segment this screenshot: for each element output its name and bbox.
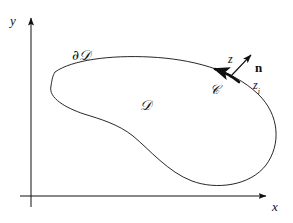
point-zi-base: z	[253, 78, 258, 92]
point-z-label: z	[228, 53, 233, 65]
normal-vector-arrow	[230, 55, 251, 77]
region-boundary-outline	[51, 57, 276, 186]
curve-label: 𝒞	[210, 83, 219, 96]
boundary-label: ∂𝒟	[72, 48, 90, 62]
point-zi-subscript: i	[258, 87, 260, 96]
x-axis-label: x	[272, 200, 278, 213]
point-zi-label: zi	[253, 79, 260, 94]
y-axis-label: y	[10, 14, 16, 27]
normal-vector-label: n	[255, 61, 262, 74]
figure-container: y x ∂𝒟 𝒟 𝒞 z zi n	[0, 0, 293, 223]
region-label: 𝒟	[140, 98, 151, 112]
